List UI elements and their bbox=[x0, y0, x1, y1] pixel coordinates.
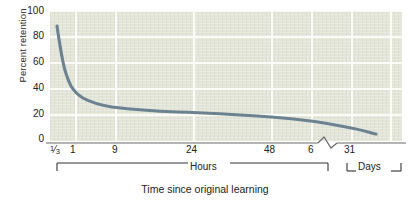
y-tick-60: 60 bbox=[18, 57, 44, 67]
bracket-label-days: Days bbox=[358, 162, 381, 172]
plot-area bbox=[50, 10, 402, 141]
y-axis-tick-labels: 100 80 60 40 20 0 bbox=[18, 0, 44, 206]
y-tick-40: 40 bbox=[18, 83, 44, 93]
x-tick-31: 31 bbox=[344, 145, 355, 155]
x-tick-6: 6 bbox=[308, 145, 314, 155]
x-axis-title: Time since original learning bbox=[0, 183, 410, 195]
x-tick-9: 9 bbox=[112, 145, 118, 155]
axis-break-icon bbox=[318, 137, 337, 148]
forgetting-curve bbox=[50, 10, 402, 141]
x-tick-1: 1 bbox=[70, 145, 76, 155]
y-tick-0: 0 bbox=[18, 134, 44, 144]
x-tick-48: 48 bbox=[264, 145, 275, 155]
y-tick-20: 20 bbox=[18, 109, 44, 119]
fraction-one-third: 1⁄3 bbox=[50, 145, 60, 155]
axis-group-brackets bbox=[44, 160, 410, 176]
y-tick-80: 80 bbox=[18, 31, 44, 41]
bracket-label-hours: Hours bbox=[190, 162, 217, 172]
y-tick-100: 100 bbox=[18, 6, 44, 16]
x-tick-one-third: 1⁄3 bbox=[50, 145, 60, 155]
x-tick-24: 24 bbox=[186, 145, 197, 155]
retention-curve-figure: Percent retention 100 80 60 40 20 0 bbox=[0, 0, 410, 206]
